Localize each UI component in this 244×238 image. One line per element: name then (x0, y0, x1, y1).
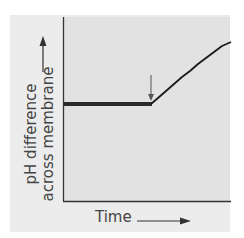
rising-curve (151, 42, 231, 104)
y-axis-label: pH difference across membrane (23, 67, 57, 202)
event-arrow-icon (148, 75, 154, 101)
x-axis-label: Time (95, 209, 132, 226)
y-axis-label-line2: across membrane (40, 67, 57, 202)
y-axis-label-line1: pH difference (23, 67, 40, 202)
x-axis-arrow-icon (137, 218, 191, 225)
